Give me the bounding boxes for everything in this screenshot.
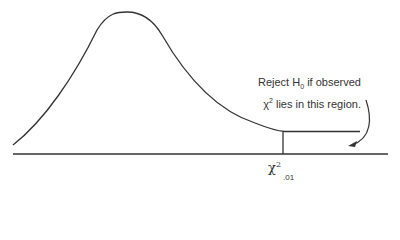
annotation-line-1: Reject H0 if observed (258, 75, 361, 94)
critical-value-label: χ2.01 (268, 160, 292, 175)
arrow-head-icon (348, 141, 357, 147)
annotation-line-2: χ2 lies in this region. (258, 94, 361, 111)
rejection-annotation: Reject H0 if observed χ2 lies in this re… (258, 75, 361, 111)
